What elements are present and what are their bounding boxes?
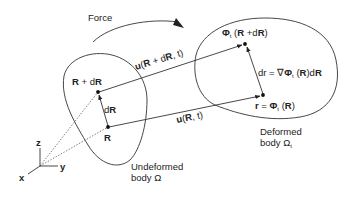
- label-R-plus-dR: R + dR: [72, 76, 102, 87]
- point-R-plus-dR: [96, 90, 100, 94]
- label-u-bottom: u(R, t): [175, 109, 204, 125]
- label-phi-R-plus-dR: Φt (R +dR): [222, 27, 268, 39]
- x-axis: [28, 166, 40, 174]
- undeformed-caption-line1: Undeformed: [131, 161, 183, 172]
- label-u-top: u(R + dR, t): [133, 47, 184, 72]
- undeformed-caption-line2: body Ω: [131, 172, 161, 183]
- deformed-caption-line1: Deformed: [260, 126, 302, 137]
- label-R: R: [104, 132, 111, 143]
- point-r: [261, 93, 265, 97]
- deformed-caption-line2: body Ωt: [260, 137, 292, 149]
- point-phi-R-plus-dR: [243, 42, 247, 46]
- force-arrowhead-icon: [173, 18, 184, 28]
- force-label: Force: [88, 12, 112, 23]
- position-vector-R: [40, 127, 108, 166]
- coordinate-axes: z y x: [19, 137, 66, 183]
- x-axis-label: x: [19, 172, 25, 183]
- label-r: r = Φt (R): [255, 100, 295, 112]
- z-axis-label: z: [36, 137, 41, 148]
- label-dr: dr = ∇Φt (R)dR: [258, 67, 322, 79]
- deformation-diagram: Force R + dR dR R u(R + dR, t) u(R, t) Φ…: [0, 0, 351, 198]
- point-R: [106, 125, 110, 129]
- y-axis-label: y: [60, 161, 66, 172]
- position-vector-RdR: [40, 92, 98, 166]
- label-dR: dR: [104, 104, 116, 115]
